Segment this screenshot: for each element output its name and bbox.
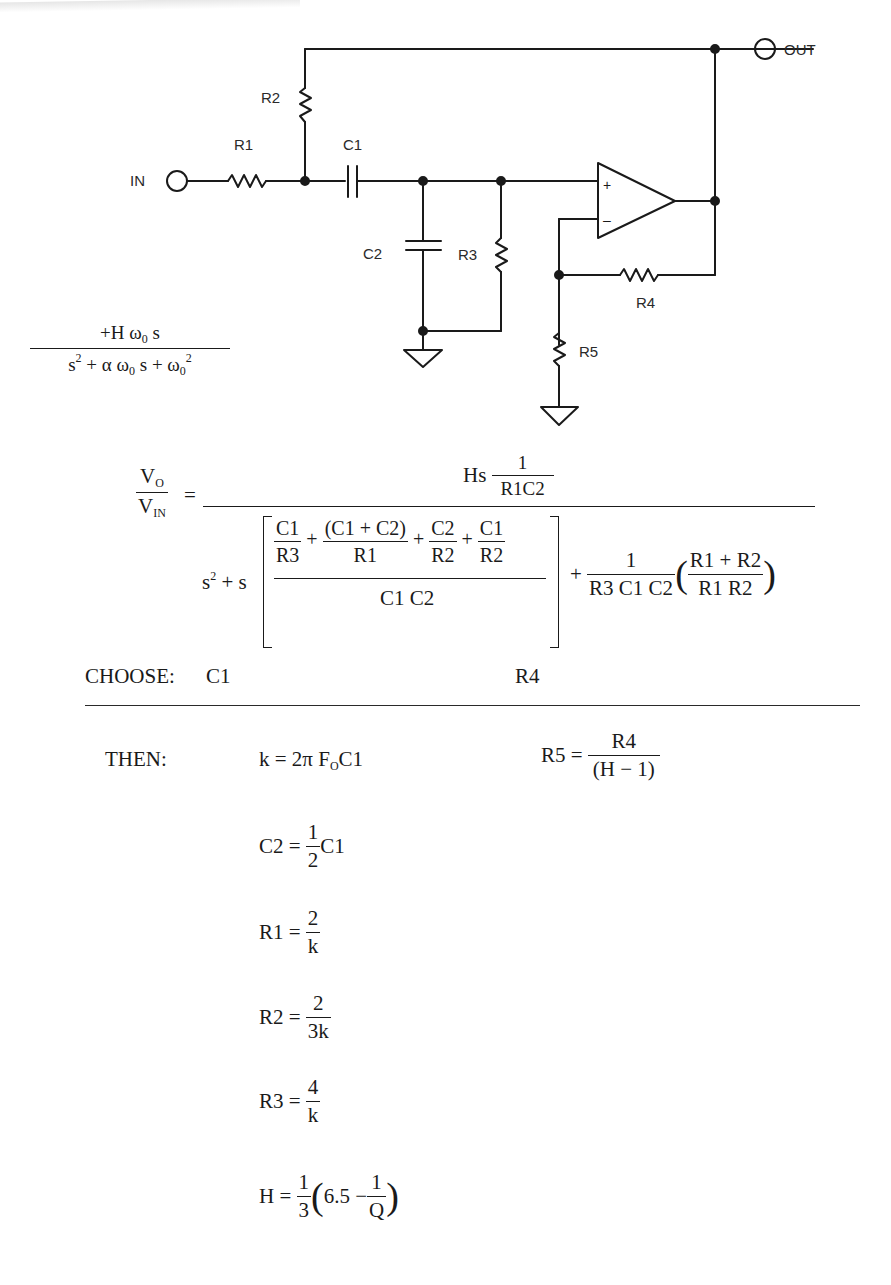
choose-item-c1: C1 <box>206 666 231 687</box>
label-r5: R5 <box>579 343 598 360</box>
choose-label: CHOOSE: <box>85 666 175 687</box>
equation-h: H = 13(6.5 −1Q) <box>259 1172 399 1221</box>
generic-denominator: s2 + α ω0 s + ω02 <box>66 352 194 377</box>
ground-icon <box>404 350 442 367</box>
input-terminal <box>167 171 187 191</box>
resistor-r4 <box>620 269 658 281</box>
output-label: OUT <box>784 41 816 58</box>
divider <box>85 705 860 706</box>
equation-r5: R5 = R4(H − 1) <box>541 731 660 780</box>
equation-r3: R3 = 4k <box>259 1077 320 1126</box>
den-s-squared: s2 + s <box>202 570 247 593</box>
equals-sign: = <box>184 485 196 506</box>
left-bracket <box>263 516 272 648</box>
equation-r1: R1 = 2k <box>259 908 320 957</box>
equation-k: k = 2π FOC1 <box>259 749 363 772</box>
bracket-fraction-bar <box>274 578 546 579</box>
opamp-minus: – <box>603 212 611 228</box>
label-r1: R1 <box>234 136 253 153</box>
resistor-r3 <box>496 238 507 272</box>
bracket-numerator: C1R3 + (C1 + C2)R1 + C2R2 + C1R2 <box>274 518 505 565</box>
label-c1: C1 <box>343 136 362 153</box>
opamp-plus: + <box>603 177 611 193</box>
equation-c2: C2 = 12C1 <box>259 822 345 871</box>
main-numerator: Hs 1 R1C2 <box>463 453 554 498</box>
right-bracket <box>550 516 559 648</box>
vo-over-vin: VO VIN <box>136 466 168 519</box>
input-label: IN <box>130 172 145 189</box>
generic-transfer-function: +H ω0 s s2 + α ω0 s + ω02 <box>30 323 230 377</box>
label-r3: R3 <box>458 246 477 263</box>
ground-icon <box>541 407 578 425</box>
label-r2: R2 <box>261 89 280 106</box>
then-label: THEN: <box>105 749 167 770</box>
main-fraction-bar <box>203 506 815 507</box>
generic-numerator: +H ω0 s <box>98 323 162 345</box>
label-r4: R4 <box>636 294 655 311</box>
label-c2: C2 <box>363 245 382 262</box>
den-tail: + 1R3 C1 C2(R1 + R2R1 R2) <box>570 550 776 599</box>
bracket-denominator: C1 C2 <box>380 588 434 609</box>
resistor-r1 <box>228 175 266 187</box>
choose-item-r4: R4 <box>515 666 540 687</box>
equation-r2: R2 = 23k <box>259 993 331 1042</box>
resistor-r2 <box>300 88 311 122</box>
